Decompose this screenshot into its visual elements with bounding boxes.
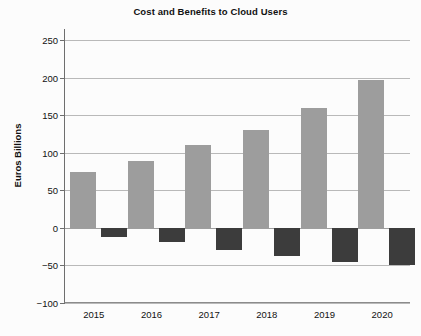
y-tick-label: 50 (47, 185, 58, 196)
y-tick-label: 0 (53, 222, 58, 233)
y-tick-label: 100 (42, 147, 58, 158)
bar-group-2016: 2016 (123, 29, 181, 302)
bar-group-2019: 2019 (296, 29, 354, 302)
bar-costs-2020 (389, 228, 415, 266)
gridline (65, 303, 410, 304)
chart-title: Cost and Benefits to Cloud Users (0, 6, 421, 17)
x-tick-label: 2020 (353, 309, 411, 320)
bar-chart: Cost and Benefits to Cloud Users Euros B… (0, 0, 421, 336)
x-tick-label: 2019 (296, 309, 354, 320)
plot-area: 250200150100500−50−100 20152016201720182… (64, 29, 410, 303)
bar-group-2020: 2020 (353, 29, 411, 302)
y-axis-title: Euros Billions (12, 106, 23, 206)
bar-benefits-2015 (70, 172, 96, 228)
bar-benefits-2018 (243, 130, 269, 228)
bar-benefits-2016 (128, 161, 154, 228)
bar-benefits-2019 (301, 108, 327, 228)
y-tick-label: −100 (37, 298, 58, 309)
x-tick-label: 2015 (65, 309, 123, 320)
bar-benefits-2017 (185, 145, 211, 228)
x-tick-label: 2017 (180, 309, 238, 320)
y-tick-label: −50 (42, 260, 58, 271)
y-tick-label: 150 (42, 110, 58, 121)
bar-benefits-2020 (358, 80, 384, 228)
bar-group-2015: 2015 (65, 29, 123, 302)
bar-group-2018: 2018 (238, 29, 296, 302)
x-tick-label: 2018 (238, 309, 296, 320)
y-tick-mark (60, 303, 65, 304)
y-tick-label: 250 (42, 35, 58, 46)
x-tick-label: 2016 (123, 309, 181, 320)
y-tick-label: 200 (42, 72, 58, 83)
bar-group-2017: 2017 (180, 29, 238, 302)
